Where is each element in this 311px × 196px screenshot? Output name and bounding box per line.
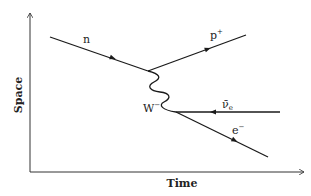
w-boson-line: W− — [143, 71, 176, 115]
arrow-icon — [210, 110, 216, 115]
w-boson-label: W− — [143, 101, 160, 115]
antineutrino-label: ν̄e — [222, 98, 233, 112]
neutron-label: n — [83, 33, 90, 46]
y-axis-label: Space — [12, 77, 25, 113]
arrow-icon — [204, 46, 211, 53]
neutron-line: n — [50, 33, 148, 71]
proton-line: p+ — [148, 28, 246, 71]
x-axis-label: Time — [166, 177, 197, 190]
electron-line: e− — [176, 112, 268, 157]
antineutrino-line: ν̄e — [176, 98, 280, 115]
arrow-icon — [231, 137, 239, 144]
feynman-diagram: Space Time n p+ W− ν̄e e− — [0, 0, 311, 196]
electron-label: e− — [232, 123, 245, 137]
proton-label: p+ — [210, 28, 223, 42]
